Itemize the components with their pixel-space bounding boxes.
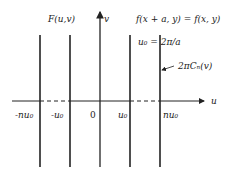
tick-label-pos-n: nu₀ xyxy=(163,110,179,120)
u0-definition: u₀ = 2π/a xyxy=(138,37,181,47)
tick-label-pos-1: u₀ xyxy=(118,110,128,120)
annotation-pointer xyxy=(162,66,174,70)
periodicity-equation: f(x + a, y) = f(x, y) xyxy=(135,14,221,24)
fourier-spectrum-diagram: F(u,v) v f(x + a, y) = f(x, y) u₀ = 2π/a… xyxy=(0,0,232,171)
tick-label-neg-1: -u₀ xyxy=(51,110,64,120)
line-annotation: 2πCₙ(v) xyxy=(177,61,213,71)
tick-label-neg-n: -nu₀ xyxy=(15,110,34,120)
transform-label: F(u,v) xyxy=(47,14,75,24)
v-axis-label: v xyxy=(104,14,109,24)
tick-label-zero: 0 xyxy=(90,110,96,120)
u-axis-label: u xyxy=(211,96,217,106)
